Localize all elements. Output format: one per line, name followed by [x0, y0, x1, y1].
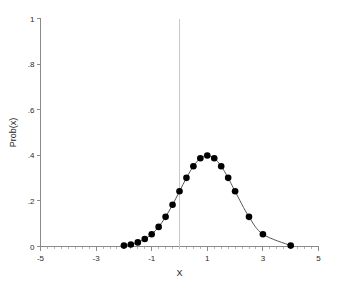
data-point [260, 231, 267, 238]
data-point [225, 175, 232, 182]
probability-distribution-chart: -5-3-1135 0.2.4.6.81 X Prob(x) [0, 0, 342, 283]
data-point [232, 188, 239, 195]
data-point [287, 242, 294, 249]
data-point [128, 241, 135, 248]
distribution-curve [124, 156, 291, 246]
y-axis-major-ticks [37, 19, 41, 247]
x-axis-tick-label: 5 [316, 254, 321, 263]
data-point [141, 236, 148, 243]
data-point [121, 242, 128, 249]
x-axis-tick-label: -5 [37, 254, 45, 263]
y-axis-tick-label: 1 [30, 15, 35, 24]
data-point [162, 214, 169, 221]
y-axis-tick-label: .2 [28, 197, 35, 206]
x-axis-minor-ticks [41, 247, 319, 250]
data-point [183, 175, 190, 182]
data-point [246, 214, 253, 221]
x-axis-tick-labels: -5-3-1135 [37, 254, 321, 263]
y-axis-tick-label: .4 [28, 151, 35, 160]
data-point [190, 163, 197, 170]
x-axis-tick-label: 3 [261, 254, 266, 263]
data-point-markers [121, 152, 294, 249]
y-axis-tick-label: 0 [30, 243, 35, 252]
x-axis-tick-label: -1 [148, 254, 156, 263]
x-axis-tick-label: 1 [205, 254, 210, 263]
data-point [218, 163, 225, 170]
chart-container: -5-3-1135 0.2.4.6.81 X Prob(x) [0, 0, 342, 283]
data-point [204, 152, 211, 159]
data-point [169, 201, 176, 208]
y-axis-title: Prob(x) [8, 118, 18, 148]
y-axis-tick-labels: 0.2.4.6.81 [28, 15, 35, 252]
y-axis-tick-label: .6 [28, 106, 35, 115]
data-point [155, 224, 162, 231]
data-point [211, 155, 218, 162]
x-axis-title: X [176, 268, 182, 278]
y-axis-tick-label: .8 [28, 60, 35, 69]
x-axis-tick-label: -3 [93, 254, 101, 263]
data-point [135, 239, 142, 246]
data-point [148, 231, 155, 238]
data-point [197, 155, 204, 162]
data-point [176, 188, 183, 195]
